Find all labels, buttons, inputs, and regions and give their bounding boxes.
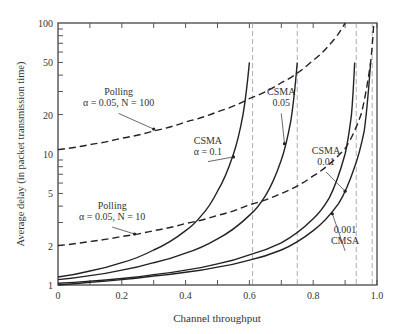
annotation-arrow xyxy=(281,113,284,143)
arrow-head-icon xyxy=(232,155,235,158)
annotation-arrow xyxy=(208,157,234,162)
annotation-label: CSMA xyxy=(312,145,341,156)
curve-csma-0-1 xyxy=(58,62,249,277)
arrow-head-icon xyxy=(344,190,347,193)
y-tick-label: 50 xyxy=(43,57,53,68)
x-tick-label: 0.4 xyxy=(179,290,192,301)
x-axis-label: Channel throughput xyxy=(173,312,261,324)
annotation-label: Polling xyxy=(104,86,133,97)
annotation-label: CMSA xyxy=(331,235,360,246)
annotation-label: CSMA xyxy=(194,135,223,146)
curve-csma-0-05 xyxy=(58,62,297,279)
y-tick-label: 2 xyxy=(48,241,53,252)
arrow-head-icon xyxy=(331,212,334,215)
annotation-label: Polling xyxy=(98,200,127,211)
annotation-label: α = 0.05, N = 10 xyxy=(79,211,145,222)
y-axis-label: Average delay (in packet transmission ti… xyxy=(15,61,27,246)
y-tick-label: 20 xyxy=(43,110,53,121)
arrow-head-icon xyxy=(283,142,286,145)
annotation-arrow xyxy=(326,172,345,191)
annotation-arrow xyxy=(112,227,134,234)
x-tick-label: 0.8 xyxy=(307,290,320,301)
curve-polling-0-05-n-100 xyxy=(58,23,345,150)
x-tick-label: 0.2 xyxy=(116,290,129,301)
annotation-label: α = 0.1 xyxy=(194,146,222,157)
annotation-arrow xyxy=(119,113,154,129)
delay-vs-throughput-chart: 00.20.40.60.81.0125102050100 Pollingα = … xyxy=(0,0,403,334)
arrow-head-icon xyxy=(152,127,155,130)
x-tick-label: 0 xyxy=(56,290,61,301)
y-tick-label: 10 xyxy=(43,149,53,160)
x-tick-label: 1.0 xyxy=(371,290,384,301)
y-tick-label: 100 xyxy=(38,18,53,29)
arrow-head-icon xyxy=(133,232,136,235)
annotation-label: 0.05 xyxy=(273,97,291,108)
y-tick-label: 5 xyxy=(48,188,53,199)
annotation-label: 0.01 xyxy=(317,156,335,167)
y-tick-label: 1 xyxy=(48,280,53,291)
annotation-label: α = 0.05, N = 100 xyxy=(83,97,154,108)
x-tick-label: 0.6 xyxy=(243,290,256,301)
curve-csma-0-01 xyxy=(58,62,355,283)
annotation-label: 0.001 xyxy=(334,224,357,235)
annotation-label: CSMA xyxy=(267,86,296,97)
